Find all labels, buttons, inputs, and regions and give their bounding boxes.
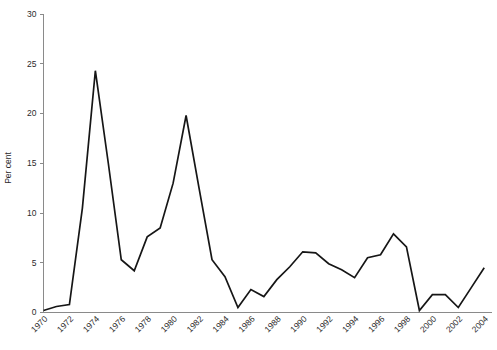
- line-chart: 051015202530 197019721974197619781980198…: [0, 0, 497, 350]
- x-tick-label: 1994: [340, 314, 361, 335]
- x-tick-label: 2002: [444, 314, 465, 335]
- y-axis: 051015202530: [27, 9, 43, 318]
- y-axis-title: Per cent: [3, 152, 13, 184]
- x-tick-label: 1974: [81, 314, 102, 335]
- x-axis: 1970197219741976197819801982198419861988…: [29, 313, 492, 335]
- y-tick-label: 5: [32, 258, 37, 268]
- x-tick-label: 2000: [418, 314, 439, 335]
- y-tick-group: 051015202530: [27, 9, 43, 318]
- x-tick-label: 1986: [236, 314, 257, 335]
- y-tick-label: 10: [27, 208, 37, 218]
- x-tick-label: 1988: [262, 314, 283, 335]
- x-tick-label: 2004: [470, 314, 491, 335]
- x-tick-label: 1996: [366, 314, 387, 335]
- x-tick-label: 1984: [210, 314, 231, 335]
- x-tick-label: 1978: [133, 314, 154, 335]
- chart-container: 051015202530 197019721974197619781980198…: [0, 0, 497, 350]
- x-tick-label: 1972: [55, 314, 76, 335]
- y-tick-label: 25: [27, 59, 37, 69]
- y-tick-label: 30: [27, 9, 37, 19]
- x-tick-label: 1982: [185, 314, 206, 335]
- plot-area: [44, 71, 485, 311]
- y-tick-label: 0: [32, 307, 37, 317]
- y-tick-label: 20: [27, 108, 37, 118]
- x-tick-label: 1990: [288, 314, 309, 335]
- x-tick-label: 1976: [107, 314, 128, 335]
- x-tick-label: 1992: [314, 314, 335, 335]
- x-tick-label: 1980: [159, 314, 180, 335]
- x-tick-label: 1998: [392, 314, 413, 335]
- data-series-line: [44, 71, 485, 311]
- y-tick-label: 15: [27, 158, 37, 168]
- x-tick-group: 1970197219741976197819801982198419861988…: [29, 314, 490, 335]
